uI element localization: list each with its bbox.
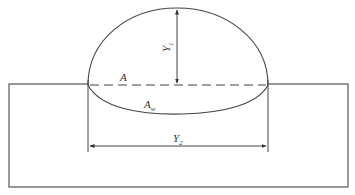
- weld-bead-diagram: A Aw Y1 Y2: [0, 0, 355, 195]
- label-height-y1: Y1: [160, 42, 175, 52]
- label-width-y2: Y2: [173, 132, 183, 147]
- label-reinforcement-area: A: [119, 71, 127, 83]
- penetration-profile: [88, 85, 268, 114]
- label-penetration-area: Aw: [143, 98, 156, 113]
- reinforcement-profile: [88, 8, 268, 85]
